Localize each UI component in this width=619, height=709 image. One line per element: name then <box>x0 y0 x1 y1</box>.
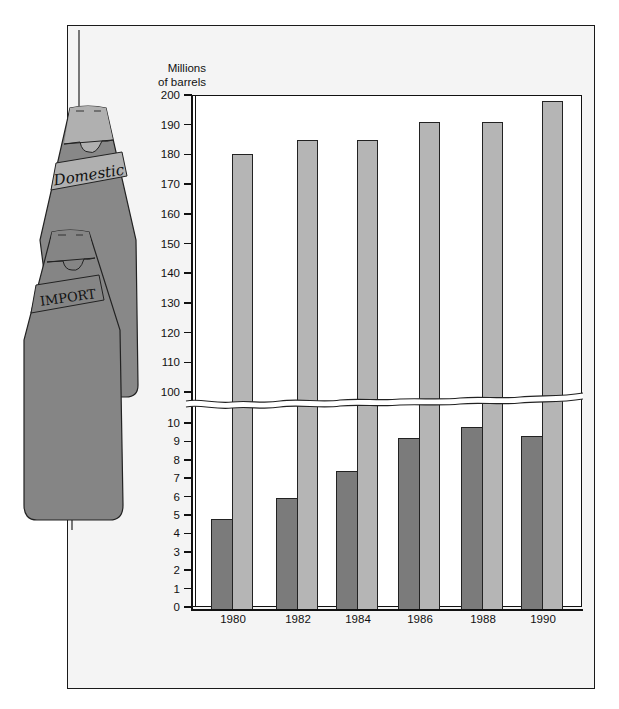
axis-break-icon <box>186 393 583 408</box>
decorations: Domestic IMPORT <box>0 0 619 709</box>
